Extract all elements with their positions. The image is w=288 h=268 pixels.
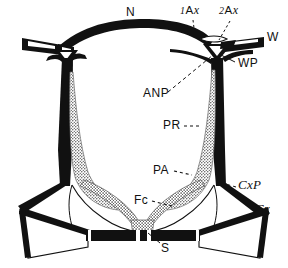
label-coxa: Cx xyxy=(255,202,270,215)
label-first-axillary-x: x xyxy=(194,3,200,17)
figure-root: N 1Ax 2Ax W WP ANP PR PA Fc CxP Cx S xyxy=(0,0,288,268)
label-wing-process: WP xyxy=(238,57,258,69)
sternal-suture-left xyxy=(136,230,140,241)
label-first-axillary: 1Ax xyxy=(180,4,200,17)
label-notum: N xyxy=(126,6,135,18)
label-pleural-ridge: PR xyxy=(163,119,181,131)
label-wing: W xyxy=(267,31,279,43)
label-second-axillary: 2Ax xyxy=(219,4,239,17)
label-coxal-process: CxP xyxy=(238,178,261,191)
label-pleural-apophysis: PA xyxy=(153,164,169,176)
label-second-axillary-letter: A xyxy=(225,4,233,16)
label-first-axillary-letter: A xyxy=(186,4,194,16)
sternum-bar xyxy=(86,230,200,241)
label-furca: Fc xyxy=(134,194,148,206)
anatomical-diagram xyxy=(0,0,288,268)
first-axillary-plate xyxy=(200,36,227,42)
label-sternum: S xyxy=(161,242,170,254)
label-anterior-notal-process: ANP xyxy=(143,87,169,99)
label-second-axillary-x: x xyxy=(233,3,239,17)
